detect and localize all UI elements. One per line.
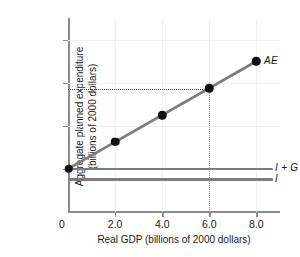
x-axis-title: Real GDP (billions of 2000 dollars) <box>68 234 280 245</box>
data-point-ae-3 <box>205 84 214 93</box>
series-label-ae: AE <box>264 55 278 66</box>
x-tick-8 <box>256 212 257 217</box>
x-tick-label-2: 2.0 <box>108 218 123 230</box>
series-label-i: I <box>275 173 278 184</box>
data-point-ae-1 <box>111 138 120 147</box>
x-tick-4 <box>162 212 163 217</box>
data-point-ae-0 <box>64 165 73 174</box>
series-line-ae <box>68 18 280 212</box>
series-label-i-plus-g: I + G <box>275 162 298 173</box>
plot-area: 8.0 6.0 5.6 4.0 2.0 1.5 0 2.0 4.0 6.0 8.… <box>68 18 280 212</box>
data-point-ae-4 <box>252 57 261 66</box>
x-tick-6 <box>209 212 210 217</box>
x-tick-2 <box>115 212 116 217</box>
chart-figure: Aggregate planned expenditure (billions … <box>0 0 300 257</box>
x-tick-label-6: 6.0 <box>202 218 217 230</box>
data-point-ae-2 <box>158 111 167 120</box>
x-tick-label-4: 4.0 <box>155 218 170 230</box>
x-tick-label-8: 8.0 <box>249 218 264 230</box>
x-tick-label-0: 0 <box>59 218 65 230</box>
